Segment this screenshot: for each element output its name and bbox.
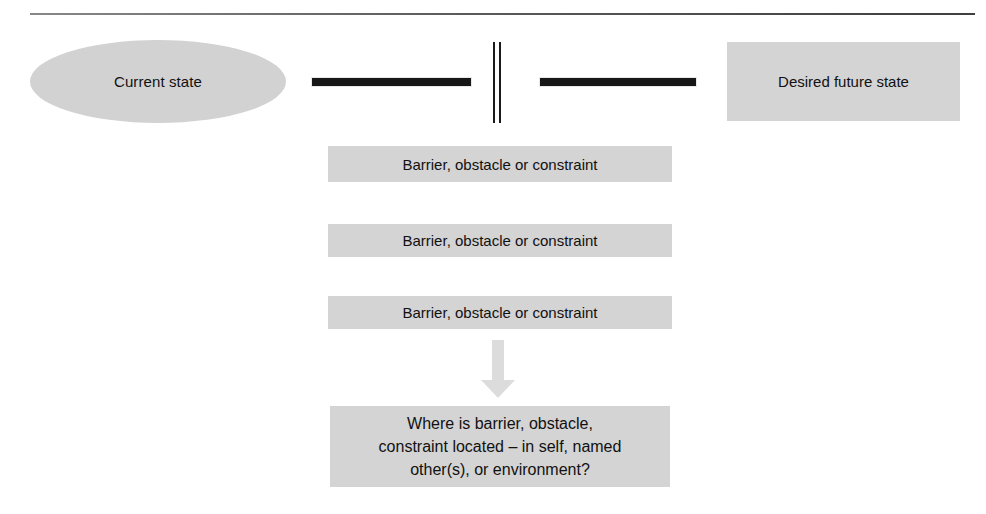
barrier-box-2: Barrier, obstacle or constraint — [328, 224, 672, 257]
divider-line-right — [499, 42, 501, 123]
barrier-box-1: Barrier, obstacle or constraint — [328, 146, 672, 182]
question-box: Where is barrier, obstacle, constraint l… — [330, 406, 670, 487]
barrier-label-2: Barrier, obstacle or constraint — [402, 232, 597, 249]
current-state-label: Current state — [114, 73, 202, 90]
desired-future-state-label: Desired future state — [778, 73, 909, 90]
desired-future-state-box: Desired future state — [727, 42, 960, 121]
diagram-page: Current state Desired future state Barri… — [0, 0, 986, 514]
vertical-divider-icon — [492, 42, 503, 123]
barrier-box-3: Barrier, obstacle or constraint — [328, 296, 672, 329]
barrier-label-3: Barrier, obstacle or constraint — [402, 304, 597, 321]
question-line-1: Where is barrier, obstacle, — [407, 412, 593, 435]
down-arrow-icon — [478, 340, 518, 400]
divider-line-left — [493, 42, 495, 123]
question-line-3: other(s), or environment? — [410, 458, 590, 481]
question-line-2: constraint located – in self, named — [379, 435, 622, 458]
current-state-ellipse: Current state — [30, 40, 286, 123]
page-top-rule — [30, 13, 975, 15]
left-connector-bar — [312, 78, 471, 86]
barrier-label-1: Barrier, obstacle or constraint — [402, 156, 597, 173]
right-connector-bar — [540, 78, 696, 86]
